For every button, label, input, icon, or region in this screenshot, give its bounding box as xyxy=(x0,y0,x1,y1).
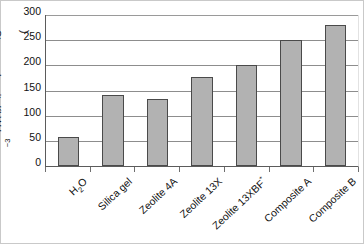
y-axis-tick-label: 50 xyxy=(29,131,41,143)
x-axis-label-text: Composite B xyxy=(306,175,358,225)
x-axis-category-label: Zeolite 13X xyxy=(177,175,224,220)
y-axis-tick-label: 150 xyxy=(23,81,41,93)
x-axis-label-text: Zeolite 13X xyxy=(177,175,224,220)
y-axis-tick-label: 100 xyxy=(23,106,41,118)
y-axis-tick-label: 0 xyxy=(35,156,41,168)
y-axis-title: Storage density/(kW h m−3) xyxy=(3,9,19,169)
y-axis-title-exponent: −3 xyxy=(3,139,12,148)
x-axis-category-label: Composite A xyxy=(261,175,313,224)
bar[interactable] xyxy=(147,99,168,166)
x-axis-label-text: Silica gel xyxy=(95,175,134,212)
bar-slot xyxy=(313,15,358,166)
x-axis-label-text: Zeolite 4A xyxy=(136,175,179,216)
bar[interactable] xyxy=(236,65,257,166)
x-axis-category-label: Silica gel xyxy=(95,175,134,212)
bar[interactable] xyxy=(58,137,79,166)
plot-area xyxy=(45,15,359,167)
x-axis-category-label: Zeolite 4A xyxy=(136,175,179,216)
bar[interactable] xyxy=(191,77,212,166)
y-axis-title-base: Storage density/(kW h m xyxy=(0,30,3,147)
bar-slot xyxy=(135,15,180,166)
bar-slot xyxy=(180,15,225,166)
bar[interactable] xyxy=(102,95,123,166)
bars-group xyxy=(46,15,358,166)
bar-slot xyxy=(46,15,91,166)
bar-slot xyxy=(269,15,314,166)
bar-slot xyxy=(91,15,136,166)
y-axis-tick-label: 200 xyxy=(23,55,41,67)
x-axis-category-labels: H2OSilica gelZeolite 4AZeolite 13XZeolit… xyxy=(45,171,358,243)
x-axis-category-label: Composite B xyxy=(306,175,358,225)
bar[interactable] xyxy=(280,40,301,166)
y-axis-tick-labels: 050100150200250300 xyxy=(19,11,41,166)
bar-chart-figure: Storage density/(kW h m−3) 0501001502002… xyxy=(0,0,364,244)
x-axis-category-label: H2O xyxy=(67,175,92,200)
x-axis-label-text: Composite A xyxy=(261,175,313,224)
y-axis-tick-label: 300 xyxy=(23,5,41,17)
bar[interactable] xyxy=(325,25,346,166)
bar-slot xyxy=(224,15,269,166)
x-axis-tick xyxy=(358,167,359,172)
y-axis-tick-label: 250 xyxy=(23,30,41,42)
